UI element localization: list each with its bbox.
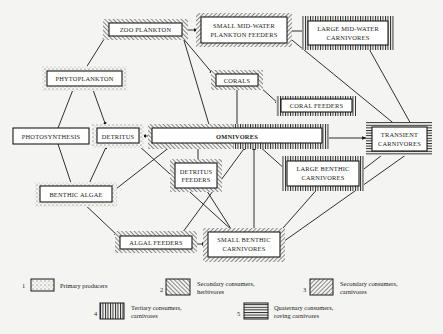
edge-large-midwater-transient xyxy=(368,47,412,126)
legend-item-3: 3 Secondary consumers, carnivores xyxy=(303,279,398,295)
legend-item-2: 2 Secondary consumers, herbivores xyxy=(160,279,255,295)
node-zoo-plankton[interactable]: ZOO PLANKTON xyxy=(103,19,188,40)
legend-label-2a: Secondary consumers, xyxy=(197,280,255,287)
node-large-midwater-carnivores[interactable]: LARGE MID-WATER CARNIVORES xyxy=(302,16,394,50)
node-large-benthic-carnivores[interactable]: LARGE BENTHIC CARNIVORES xyxy=(282,156,364,191)
legend-label-5a: Quaternary consumers, xyxy=(274,304,334,311)
detritus-feeders-line2: FEEDERS xyxy=(181,176,210,183)
herbivore-swatch-icon xyxy=(166,279,190,295)
edge-photosynthesis-phytoplankton xyxy=(58,87,74,128)
photosynthesis-label: PHOTOSYNTHESIS xyxy=(22,133,81,140)
large-midwater-line1: LARGE MID-WATER xyxy=(317,25,379,32)
node-small-midwater-plankton-feeders[interactable]: SMALL MID-WATER PLANKTON FEEDERS xyxy=(196,13,292,47)
small-midwater-line2: PLANKTON FEEDERS xyxy=(211,31,278,38)
large-benthic-line2: CARNIVORES xyxy=(302,174,345,181)
quaternary-swatch-icon xyxy=(244,303,268,319)
legend-label-2b: herbivores xyxy=(197,288,224,295)
edge-zoo-omnivores xyxy=(183,37,210,128)
small-benthic-line1: SMALL BENTHIC xyxy=(217,236,270,243)
legend-label-4b: carnivores xyxy=(131,312,158,319)
benthic-algae-label: BENTHIC ALGAE xyxy=(49,191,102,198)
tertiary-swatch-icon xyxy=(100,303,124,319)
coral-feeders-label: CORAL FEEDERS xyxy=(290,102,344,109)
detritus-feeders-line1: DETRITUS xyxy=(180,168,213,175)
node-small-benthic-carnivores[interactable]: SMALL BENTHIC CARNIVORES xyxy=(203,228,285,262)
small-midwater-line1: SMALL MID-WATER xyxy=(213,22,275,29)
edge-photosynthesis-benthic-algae xyxy=(58,144,72,186)
legend-num-2: 2 xyxy=(160,286,163,293)
node-phytoplankton[interactable]: PHYTOPLANKTON xyxy=(42,66,127,91)
legend-item-5: 5 Quaternary consumers, roving carnivore… xyxy=(237,303,334,319)
node-detritus[interactable]: DETRITUS xyxy=(92,124,144,148)
node-omnivores[interactable]: OMNIVORES xyxy=(148,124,329,149)
node-photosynthesis[interactable]: PHOTOSYNTHESIS xyxy=(13,128,89,144)
large-benthic-line1: LARGE BENTHIC xyxy=(296,165,349,172)
edge-phytoplankton-zoo-plankton xyxy=(84,36,106,71)
legend-num-5: 5 xyxy=(237,310,240,317)
legend-label-3a: Secondary consumers, xyxy=(340,280,398,287)
transient-line2: CARNIVORES xyxy=(378,140,421,147)
node-algal-feeders[interactable]: ALGAL FEEDERS xyxy=(115,231,197,253)
legend-label-3b: carnivores xyxy=(340,288,367,295)
edge-phytoplankton-detritus xyxy=(92,87,106,126)
legend-item-4: 4 Tertiary consumers, carnivores xyxy=(94,303,182,319)
node-benthic-algae[interactable]: BENTHIC ALGAE xyxy=(35,182,117,207)
small-benthic-line2: CARNIVORES xyxy=(223,245,266,252)
algal-feeders-label: ALGAL FEEDERS xyxy=(129,239,183,246)
node-corals[interactable]: CORALS xyxy=(211,70,263,90)
primary-producer-swatch-icon xyxy=(31,279,54,291)
corals-label: CORALS xyxy=(224,77,251,84)
node-transient-carnivores[interactable]: TRANSIENT CARNIVORES xyxy=(366,122,432,156)
node-coral-feeders[interactable]: CORAL FEEDERS xyxy=(276,96,356,116)
legend-item-1: 1 Primary producers xyxy=(22,279,108,291)
transient-line1: TRANSIENT xyxy=(381,131,418,138)
omnivores-label: OMNIVORES xyxy=(216,133,258,140)
zoo-plankton-label: ZOO PLANKTON xyxy=(120,26,172,33)
legend-label-1: Primary producers xyxy=(60,282,108,289)
legend-num-1: 1 xyxy=(22,282,25,289)
node-detritus-feeders[interactable]: DETRITUS FEEDERS xyxy=(170,159,222,192)
detritus-label: DETRITUS xyxy=(102,133,135,140)
legend-num-4: 4 xyxy=(94,310,98,317)
edge-benthic-algae-detritus xyxy=(88,145,107,186)
secondary-carnivore-swatch-icon xyxy=(310,279,333,295)
phytoplankton-label: PHYTOPLANKTON xyxy=(55,75,113,82)
legend-label-5b: roving carnivores xyxy=(274,312,319,319)
large-midwater-line2: CARNIVORES xyxy=(327,34,370,41)
food-web-diagram: ZOO PLANKTON SMALL MID-WATER PLANKTON FE… xyxy=(0,0,443,334)
legend: 1 Primary producers 2 Secondary consumer… xyxy=(22,279,398,319)
legend-label-4a: Tertiary consumers, xyxy=(131,304,182,311)
legend-num-3: 3 xyxy=(303,286,306,293)
